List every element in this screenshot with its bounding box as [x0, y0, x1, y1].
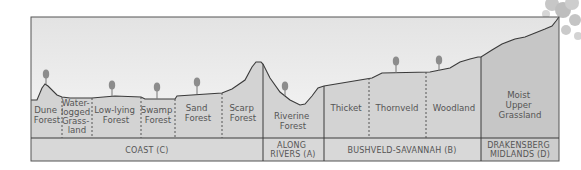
region-label-along-rivers: ALONG RIVERS (A)	[270, 141, 315, 159]
habitat-label-thornveld: Thornveld	[375, 103, 419, 113]
region-label-drakensberg-midlands: DRAKENSBERG MIDLANDS (D)	[487, 141, 552, 159]
region-label-coast: COAST (C)	[125, 146, 168, 155]
habitat-label-dune-forest: Dune Forest	[34, 105, 61, 125]
habitat-label-woodland: Woodland	[433, 103, 476, 113]
habitat-label-thicket: Thicket	[329, 103, 362, 113]
habitat-label-swamp-forest: Swamp Forest	[141, 105, 175, 125]
habitat-label-scarp-forest: Scarp Forest	[229, 103, 256, 123]
habitat-label-sand-forest: Sand Forest	[185, 103, 212, 123]
region-label-bushveld-savannah: BUSHVELD-SAVANNAH (B)	[347, 146, 456, 155]
vegetation-cross-section-diagram: Dune Forest Water- logged Grass- land Lo…	[0, 0, 581, 170]
